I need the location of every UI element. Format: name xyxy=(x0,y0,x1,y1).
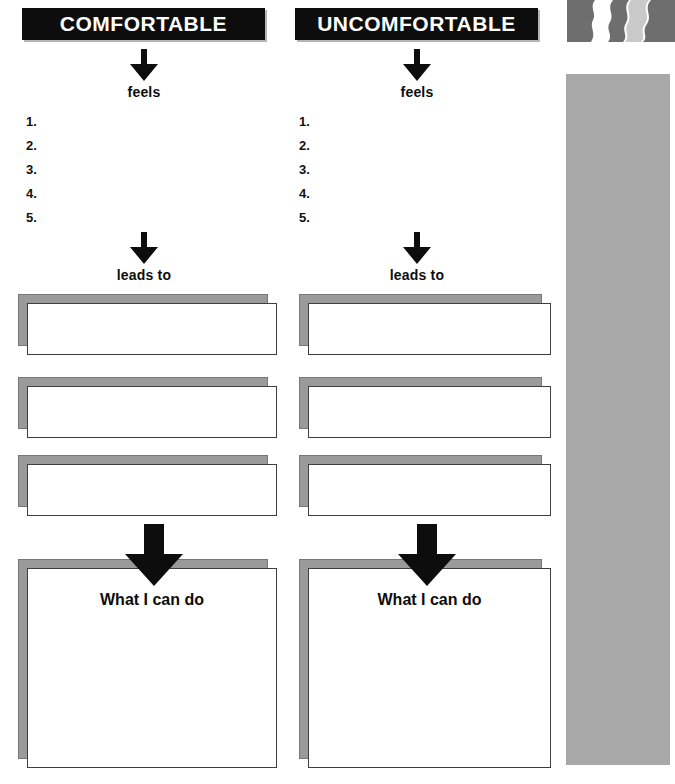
leads-to-label-uncomfortable: leads to xyxy=(369,267,465,283)
response-box-comfortable-3[interactable] xyxy=(18,455,268,507)
leads-to-label-comfortable: leads to xyxy=(96,267,192,283)
arrow-head xyxy=(398,554,456,586)
feels-label-comfortable: feels xyxy=(104,84,184,100)
worksheet-page: COMFORTABLE feels 1. 2. 3. 4. 5. leads t… xyxy=(0,0,675,784)
list-item[interactable]: 4. xyxy=(299,182,419,206)
action-arrow-uncomfortable xyxy=(398,524,456,586)
feels-arrow-comfortable xyxy=(130,49,158,81)
box-surface[interactable] xyxy=(308,303,551,355)
action-box-title-comfortable: What I can do xyxy=(27,591,277,609)
feels-arrow-uncomfortable xyxy=(403,49,431,81)
leads-to-arrow-comfortable xyxy=(130,232,158,264)
box-surface[interactable] xyxy=(308,386,551,438)
list-item[interactable]: 2. xyxy=(26,134,146,158)
leads-to-arrow-uncomfortable xyxy=(403,232,431,264)
list-item[interactable]: 5. xyxy=(26,206,146,230)
list-item[interactable]: 4. xyxy=(26,182,146,206)
face-profiles-graphic xyxy=(567,0,675,42)
feelings-list-comfortable[interactable]: 1. 2. 3. 4. 5. xyxy=(26,110,146,230)
response-box-comfortable-2[interactable] xyxy=(18,377,268,429)
response-box-comfortable-1[interactable] xyxy=(18,294,268,346)
feels-label-uncomfortable: feels xyxy=(377,84,457,100)
list-item[interactable]: 3. xyxy=(26,158,146,182)
box-surface[interactable] xyxy=(308,464,551,516)
action-arrow-comfortable xyxy=(125,524,183,586)
arrow-head xyxy=(130,247,158,264)
header-bar-uncomfortable: UNCOMFORTABLE xyxy=(295,8,538,40)
response-box-uncomfortable-3[interactable] xyxy=(299,455,542,507)
box-surface[interactable] xyxy=(27,303,277,355)
box-surface[interactable] xyxy=(27,464,277,516)
list-item[interactable]: 5. xyxy=(299,206,419,230)
arrow-head xyxy=(130,64,158,81)
header-label-comfortable: COMFORTABLE xyxy=(60,12,227,36)
header-bar-comfortable: COMFORTABLE xyxy=(22,8,265,40)
list-item[interactable]: 1. xyxy=(26,110,146,134)
action-box-title-uncomfortable: What I can do xyxy=(308,591,551,609)
list-item[interactable]: 3. xyxy=(299,158,419,182)
arrow-head xyxy=(403,64,431,81)
gray-sidebar-bar xyxy=(566,74,670,765)
action-box-comfortable[interactable] xyxy=(18,559,268,759)
header-label-uncomfortable: UNCOMFORTABLE xyxy=(317,12,516,36)
arrow-head xyxy=(403,247,431,264)
arrow-head xyxy=(125,554,183,586)
action-box-uncomfortable[interactable] xyxy=(299,559,542,759)
response-box-uncomfortable-1[interactable] xyxy=(299,294,542,346)
response-box-uncomfortable-2[interactable] xyxy=(299,377,542,429)
list-item[interactable]: 2. xyxy=(299,134,419,158)
list-item[interactable]: 1. xyxy=(299,110,419,134)
box-surface[interactable] xyxy=(27,386,277,438)
feelings-list-uncomfortable[interactable]: 1. 2. 3. 4. 5. xyxy=(299,110,419,230)
